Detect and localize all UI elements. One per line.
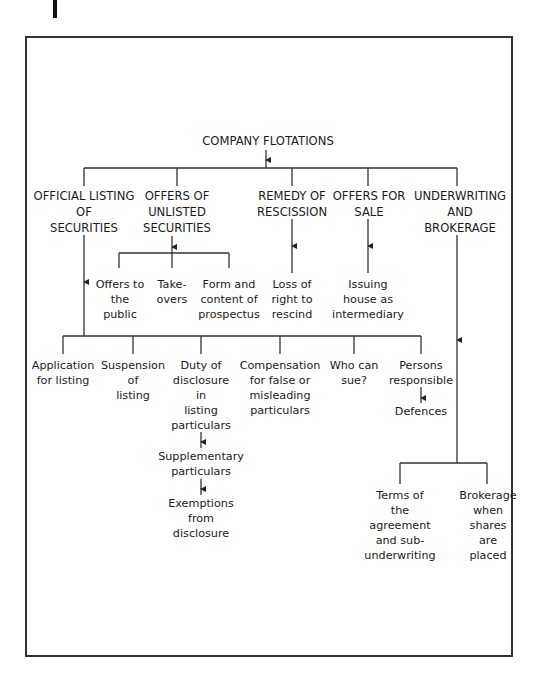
node-underwriting-brokerage: UNDERWRITING AND BROKERAGE [414, 188, 506, 236]
node-offers-to-public: Offers to the public [96, 277, 145, 322]
node-brokerage-when-placed: Brokerage when shares are placed [459, 488, 516, 563]
node-form-content-prospectus: Form and content of prospectus [198, 277, 260, 322]
node-terms-of-agreement: Terms of the agreement and sub- underwri… [364, 488, 435, 563]
node-exemptions-from-disclosure: Exemptions from disclosure [168, 496, 234, 541]
node-offers-for-sale: OFFERS FOR SALE [333, 188, 406, 220]
node-takeovers: Take- overs [157, 277, 188, 307]
node-issuing-house: Issuing house as intermediary [332, 277, 404, 322]
node-suspension-of-listing: Suspension of listing [101, 358, 165, 403]
node-application-for-listing: Application for listing [32, 358, 95, 388]
node-persons-responsible: Persons responsible [389, 358, 453, 388]
node-company-flotations: COMPANY FLOTATIONS [202, 133, 334, 149]
node-offers-unlisted: OFFERS OF UNLISTED SECURITIES [143, 188, 211, 236]
node-remedy-rescission: REMEDY OF RESCISSION [257, 188, 327, 220]
connector-lines [0, 0, 539, 693]
node-loss-of-right: Loss of right to rescind [271, 277, 312, 322]
node-official-listing: OFFICIAL LISTING OF SECURITIES [34, 188, 135, 236]
node-supplementary-particulars: Supplementary particulars [158, 449, 244, 479]
node-duty-of-disclosure: Duty of disclosure in listing particular… [171, 358, 231, 433]
node-defences: Defences [395, 404, 447, 419]
node-who-can-sue: Who can sue? [330, 358, 379, 388]
node-compensation: Compensation for false or misleading par… [240, 358, 321, 418]
